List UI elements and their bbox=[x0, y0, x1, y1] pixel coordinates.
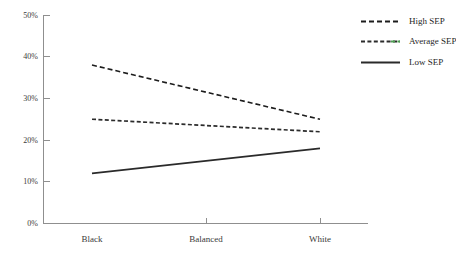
y-tick-label: 0% bbox=[27, 219, 38, 228]
line-chart: 50% 40% 30% 20% 10% 0% Black Balanced Wh… bbox=[0, 0, 456, 262]
x-tick-label-black: Black bbox=[82, 234, 103, 244]
chart-canvas: 50% 40% 30% 20% 10% 0% Black Balanced Wh… bbox=[0, 0, 456, 262]
x-tick-label-white: White bbox=[309, 234, 331, 244]
chart-background bbox=[0, 0, 456, 262]
y-tick-label: 20% bbox=[23, 136, 38, 145]
y-tick-label: 10% bbox=[23, 177, 38, 186]
legend-label-high-sep: High SEP bbox=[409, 16, 445, 26]
y-tick-label: 30% bbox=[23, 94, 38, 103]
legend-label-low-sep: Low SEP bbox=[409, 57, 443, 67]
x-tick-label-balanced: Balanced bbox=[189, 234, 223, 244]
legend-label-average-sep: Average SEP bbox=[409, 36, 456, 46]
y-tick-label: 50% bbox=[23, 11, 38, 20]
y-tick-label: 40% bbox=[23, 52, 38, 61]
